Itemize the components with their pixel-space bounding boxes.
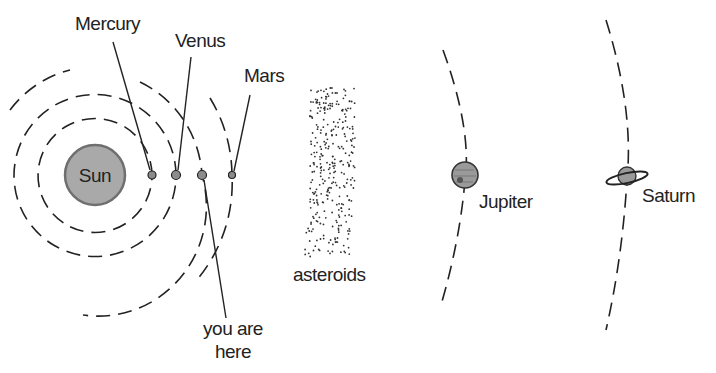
sun-label: Sun <box>79 165 111 186</box>
asteroid-belt-label: asteroids <box>293 264 366 285</box>
earth-label-line2: here <box>215 341 251 362</box>
earth-label-line1: you are <box>203 318 263 339</box>
mercury-label: Mercury <box>75 13 141 34</box>
mars-planet <box>229 172 236 179</box>
earth-orbit-left <box>10 70 70 110</box>
asteroid-belt <box>304 87 356 257</box>
sun: Sun <box>65 145 125 205</box>
earth-planet <box>198 171 207 180</box>
saturn-label: Saturn <box>642 185 695 206</box>
mercury-leader-line <box>113 42 150 170</box>
venus-label: Venus <box>175 30 225 51</box>
inner-orbits <box>10 70 232 316</box>
jupiter-planet <box>452 162 478 188</box>
mars-leader-line <box>234 95 250 171</box>
jupiter-label: Jupiter <box>479 191 534 212</box>
mercury-planet <box>148 171 156 179</box>
mars-orbit <box>195 98 232 282</box>
mars-label: Mars <box>244 65 284 86</box>
venus-planet <box>172 171 181 180</box>
earth-leader-line <box>204 180 226 318</box>
solar-system-diagram: Sun Mercury Venus Mars you are here aste… <box>0 0 716 373</box>
